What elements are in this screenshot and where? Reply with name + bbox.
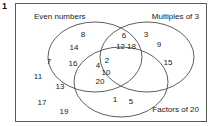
- num-4: 4: [96, 62, 100, 70]
- num-11: 11: [34, 73, 42, 81]
- num-3: 3: [144, 31, 148, 39]
- num-14: 14: [70, 44, 79, 52]
- venn-diagram-frame: Even numbers Multiples of 3 Factors of 2…: [15, 3, 207, 122]
- num-1: 1: [113, 96, 117, 104]
- num-19: 19: [60, 108, 69, 116]
- num-12-18: 12 18: [116, 43, 136, 51]
- num-6: 6: [122, 32, 126, 40]
- worksheet-screenshot: 1 Even numbers Multiples of 3 Factors of…: [0, 0, 209, 126]
- num-13: 13: [56, 83, 65, 91]
- num-8: 8: [81, 31, 85, 39]
- num-2: 2: [105, 57, 109, 65]
- num-9: 9: [157, 41, 161, 49]
- num-10: 10: [102, 69, 111, 77]
- num-17: 17: [38, 99, 47, 107]
- set-label-factors-of-20: Factors of 20: [152, 106, 199, 114]
- num-7: 7: [47, 58, 51, 66]
- num-15: 15: [164, 59, 173, 67]
- num-20: 20: [96, 78, 105, 86]
- num-16: 16: [69, 60, 78, 68]
- set-label-multiples-of-3: Multiples of 3: [152, 13, 199, 21]
- num-5: 5: [129, 98, 133, 106]
- set-label-even-numbers: Even numbers: [34, 13, 86, 21]
- question-number: 1: [2, 2, 7, 11]
